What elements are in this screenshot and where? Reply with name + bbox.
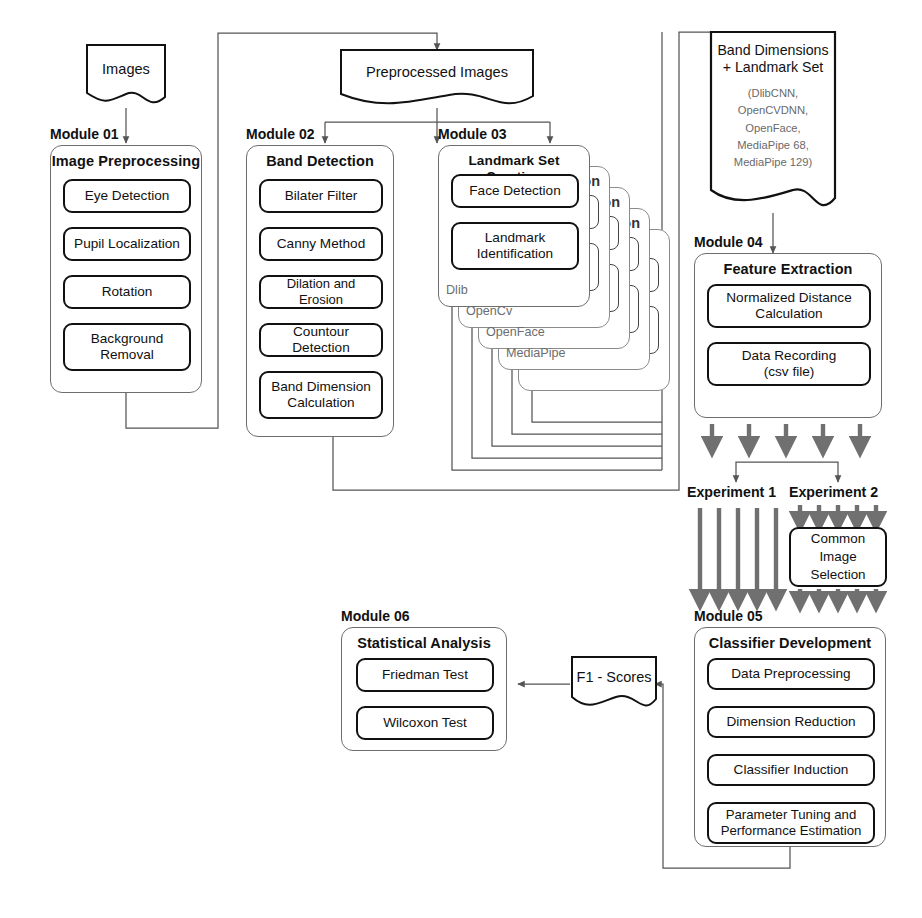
module-02-label: Module 02 [246,126,314,142]
step-band-dimension-calculation[interactable]: Band Dimension Calculation [259,371,383,419]
module-02-container[interactable]: Band Detection Bilater Filter Canny Meth… [246,145,394,437]
module-01-title: Image Preprocessing [51,153,201,170]
step-rotation[interactable]: Rotation [63,275,191,309]
images-document-label: Images [85,61,167,79]
module-06-container[interactable]: Statistical Analysis Friedman Test Wilco… [341,627,507,751]
step-dilation-erosion[interactable]: Dilation and Erosion [259,275,383,309]
module-06-label: Module 06 [341,608,409,624]
step-friedman-test[interactable]: Friedman Test [356,658,494,692]
step-eye-detection[interactable]: Eye Detection [63,179,191,213]
stack-label-mediapipe: MediaPipe [506,346,566,360]
stack-label-openface: OpenFace [486,325,545,339]
f1-scores-label: F1 - Scores [570,669,658,687]
module-05-title: Classifier Development [695,635,885,652]
step-parameter-tuning[interactable]: Parameter Tuning and Performance Estimat… [707,802,875,844]
module-04-container[interactable]: Feature Extraction Normalized Distance C… [694,253,882,418]
module-05-label: Module 05 [694,608,762,624]
step-classifier-induction[interactable]: Classifier Induction [707,754,875,786]
preprocessed-images-label: Preprocessed Images [339,64,535,82]
experiment-2-label: Experiment 2 [789,484,878,500]
step-background-removal[interactable]: Background Removal [63,323,191,371]
step-wilcoxon-test[interactable]: Wilcoxon Test [356,706,494,740]
step-canny-method[interactable]: Canny Method [259,227,383,261]
step-normalized-distance-calculation[interactable]: Normalized Distance Calculation [707,284,871,328]
flowchart-canvas: Images Preprocessed Images Band Dimensio… [0,0,922,918]
step-data-recording[interactable]: Data Recording (csv file) [707,342,871,386]
module-02-title: Band Detection [247,153,393,170]
band-dimensions-document: Band Dimensions + Landmark Set (DlibCNN,… [709,30,837,216]
step-pupil-localization[interactable]: Pupil Localization [63,227,191,261]
band-dimensions-title: Band Dimensions + Landmark Set [709,42,837,77]
module-05-container[interactable]: Classifier Development Data Preprocessin… [694,627,886,847]
step-dimension-reduction[interactable]: Dimension Reduction [707,706,875,738]
common-image-selection-box[interactable]: Common Image Selection [789,527,887,587]
step-countour-detection[interactable]: Countour Detection [259,323,383,357]
module-04-title: Feature Extraction [695,261,881,278]
step-face-detection[interactable]: Face Detection [451,174,579,208]
module-04-label: Module 04 [694,234,762,250]
module-06-title: Statistical Analysis [342,635,506,652]
step-data-preprocessing[interactable]: Data Preprocessing [707,658,875,690]
module-01-label: Module 01 [50,126,118,142]
f1-scores-document: F1 - Scores [570,655,658,713]
step-bilater-filter[interactable]: Bilater Filter [259,179,383,213]
experiment-1-label: Experiment 1 [687,484,776,500]
stack-label-opencv: OpenCv [466,304,512,318]
step-landmark-identification[interactable]: Landmark Identification [451,222,579,270]
band-dimensions-sublist: (DlibCNN, OpenCVDNN, OpenFace, MediaPipe… [709,85,837,172]
module-01-container[interactable]: Image Preprocessing Eye Detection Pupil … [50,145,202,393]
module-03-label: Module 03 [438,126,506,142]
stack-label-dlib: Dlib [446,283,468,297]
preprocessed-images-document: Preprocessed Images [339,48,535,110]
images-document: Images [85,43,167,109]
